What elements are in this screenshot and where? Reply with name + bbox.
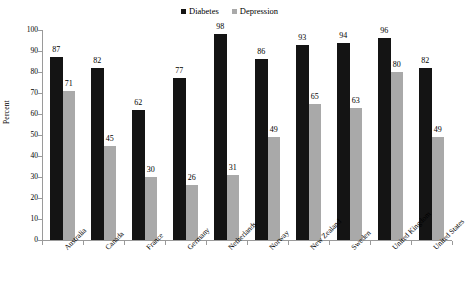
legend-label-depression: Depression xyxy=(240,7,278,16)
bar-diabetes-new-zealand xyxy=(296,45,309,240)
bar-value-label: 86 xyxy=(251,48,272,56)
y-tick-label: 100 xyxy=(27,26,38,34)
y-tick-label: 60 xyxy=(31,110,39,118)
legend-swatch-diabetes xyxy=(181,9,186,14)
y-tick-mark xyxy=(38,135,42,136)
y-tick-label: 20 xyxy=(31,194,39,202)
y-tick-label: 90 xyxy=(31,47,39,55)
y-tick-label: 10 xyxy=(31,215,39,223)
x-tick-mark xyxy=(247,241,248,245)
bar-diabetes-norway xyxy=(255,59,268,240)
bar-value-label: 30 xyxy=(141,166,162,174)
bar-value-label: 62 xyxy=(128,99,149,107)
bar-value-label: 87 xyxy=(46,46,67,54)
bar-diabetes-netherlands xyxy=(214,34,227,240)
bar-value-label: 96 xyxy=(374,27,395,35)
x-tick-mark xyxy=(329,241,330,245)
y-tick-label: 40 xyxy=(31,152,39,160)
y-tick-mark xyxy=(38,114,42,115)
y-tick-label: 30 xyxy=(31,173,39,181)
bar-depression-united-states xyxy=(432,137,445,240)
y-tick-mark xyxy=(38,198,42,199)
x-tick-mark xyxy=(165,241,166,245)
bar-depression-new-zealand xyxy=(309,104,322,241)
bar-value-label: 93 xyxy=(292,34,313,42)
bar-value-label: 63 xyxy=(346,97,367,105)
legend-label-diabetes: Diabetes xyxy=(189,7,219,16)
bar-diabetes-canada xyxy=(91,68,104,240)
bar-diabetes-germany xyxy=(173,78,186,240)
bar-value-label: 49 xyxy=(428,126,449,134)
bar-depression-netherlands xyxy=(227,175,240,240)
legend-swatch-depression xyxy=(232,9,237,14)
bar-value-label: 98 xyxy=(210,23,231,31)
y-tick-mark xyxy=(38,30,42,31)
bar-depression-canada xyxy=(104,146,117,241)
bar-value-label: 82 xyxy=(87,57,108,65)
y-tick-mark xyxy=(38,156,42,157)
x-tick-mark xyxy=(206,241,207,245)
y-axis-title: Percent xyxy=(2,100,11,124)
y-axis-tick-labels: 0102030405060708090100 xyxy=(16,0,38,303)
bar-depression-sweden xyxy=(350,108,363,240)
bar-value-label: 77 xyxy=(169,67,190,75)
bar-depression-australia xyxy=(63,91,76,240)
chart-legend: Diabetes Depression xyxy=(0,7,459,16)
bar-depression-norway xyxy=(268,137,281,240)
bar-value-label: 26 xyxy=(182,174,203,182)
legend-item-depression: Depression xyxy=(232,7,278,16)
y-tick-mark xyxy=(38,177,42,178)
bar-value-label: 80 xyxy=(387,61,408,69)
y-tick-label: 50 xyxy=(31,131,39,139)
bar-value-label: 94 xyxy=(333,32,354,40)
x-tick-mark xyxy=(83,241,84,245)
legend-item-diabetes: Diabetes xyxy=(181,7,219,16)
x-tick-mark xyxy=(370,241,371,245)
x-tick-mark xyxy=(288,241,289,245)
y-tick-mark xyxy=(38,219,42,220)
bar-value-label: 82 xyxy=(415,57,436,65)
bar-depression-united-kingdom xyxy=(391,72,404,240)
bar-value-label: 49 xyxy=(264,126,285,134)
y-tick-mark xyxy=(38,51,42,52)
bar-value-label: 71 xyxy=(59,80,80,88)
bar-depression-germany xyxy=(186,185,199,240)
y-tick-mark xyxy=(38,72,42,73)
x-tick-mark xyxy=(411,241,412,245)
x-tick-mark xyxy=(452,241,453,245)
x-tick-mark xyxy=(124,241,125,245)
bar-depression-france xyxy=(145,177,158,240)
y-tick-mark xyxy=(38,93,42,94)
bar-diabetes-sweden xyxy=(337,43,350,240)
y-tick-label: 80 xyxy=(31,68,39,76)
bar-diabetes-france xyxy=(132,110,145,240)
bar-value-label: 31 xyxy=(223,164,244,172)
bar-value-label: 45 xyxy=(100,135,121,143)
y-tick-label: 70 xyxy=(31,89,39,97)
bar-value-label: 65 xyxy=(305,93,326,101)
x-tick-mark xyxy=(42,241,43,245)
